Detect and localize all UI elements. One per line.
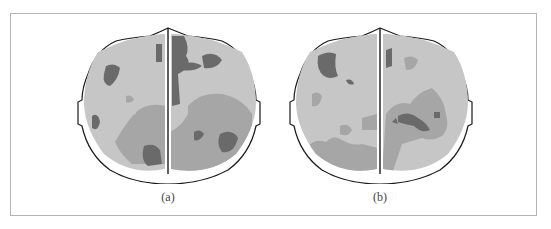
panel-caption-a: (a) — [148, 190, 188, 205]
brain-map-a — [70, 14, 270, 184]
panel-caption-b: (b) — [360, 190, 400, 205]
brain-map-b — [282, 14, 482, 184]
